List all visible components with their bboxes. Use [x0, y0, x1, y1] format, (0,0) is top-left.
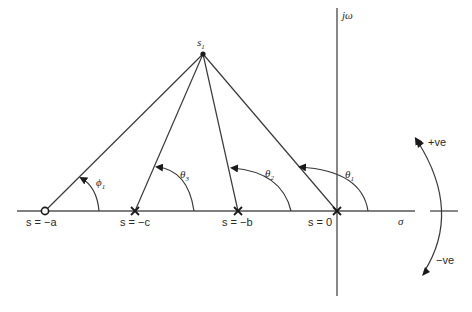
pole-label-b: s = −b: [222, 216, 253, 228]
vector-pole-b: [203, 54, 238, 211]
pole-label-0: s = 0: [308, 216, 332, 228]
positive-direction-label: +ve: [428, 136, 446, 148]
real-axis-label: σ: [398, 215, 404, 227]
zero-marker-a: [41, 207, 48, 214]
vector-pole-c: [135, 54, 203, 211]
angle-label-theta3: θ3: [180, 168, 189, 183]
zero-label-a: s = −a: [26, 216, 57, 228]
vector-pole-0: [203, 54, 337, 211]
angle-label-theta1: θ1: [345, 168, 354, 183]
angle-arc-theta2: [232, 168, 291, 211]
imaginary-axis-label: jω: [340, 9, 353, 21]
direction-arc: [418, 142, 442, 272]
s-plane-diagram: jω σ s1 s = −a s = −c s = −b s = 0 ϕ1 θ3…: [0, 0, 472, 312]
angle-arc-theta1: [300, 167, 368, 211]
vector-zero-a: [45, 54, 203, 211]
negative-direction-arrow-icon: [422, 267, 430, 276]
pole-label-c: s = −c: [120, 216, 150, 228]
positive-direction-arrow-icon: [416, 139, 424, 148]
test-point-s1: [200, 51, 205, 56]
negative-direction-label: −ve: [436, 254, 454, 266]
angle-label-theta2: θ2: [265, 167, 274, 182]
test-point-label: s1: [197, 36, 205, 51]
angle-arc-theta3: [157, 167, 194, 211]
angle-label-phi1: ϕ1: [96, 176, 105, 191]
